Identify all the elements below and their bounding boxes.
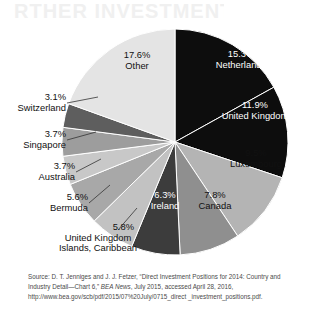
callout-pct-australia: 3.7%: [54, 160, 75, 171]
callout-name-singapore: Singapore: [23, 139, 66, 150]
callout-name-uk-islands-caribbean-line1: United Kingdom: [65, 232, 132, 243]
callout-name-uk-islands-caribbean-line2: Islands, Caribbean: [59, 242, 137, 253]
slice-label-other: 17.6% Other: [107, 50, 167, 71]
slice-label-united-kingdom: 11.9% United Kingdom: [205, 100, 305, 121]
callout-pct-switzerland: 3.1%: [45, 91, 66, 102]
slice-label-canada: 7.8% Canada: [188, 190, 242, 211]
callout-pct-singapore: 3.7%: [45, 128, 66, 139]
callout-label-singapore: 3.7% Singapore: [0, 129, 66, 150]
pie-chart-figure: RTHER INVESTMENTS 15.3% Netherlands 11.9…: [0, 0, 311, 322]
source-caption: Source: D. T. Jenniges and J. J. Fetzer,…: [28, 272, 296, 303]
source-caption-publication: BEA News: [101, 283, 131, 290]
callout-name-bermuda: Bermuda: [50, 202, 88, 213]
slice-name-ireland: Ireland: [141, 201, 189, 212]
chart-area: 15.3% Netherlands 11.9% United Kingdom 9…: [0, 0, 311, 268]
slice-name-canada: Canada: [188, 201, 242, 212]
callout-label-uk-islands-caribbean: 5.8% United Kingdom Islands, Caribbean: [18, 222, 178, 254]
callout-name-switzerland: Switzerland: [18, 102, 66, 113]
slice-label-luxembourg: 9.5% Luxembourg: [212, 148, 300, 169]
slice-name-netherlands: Netherlands: [198, 60, 284, 71]
callout-name-australia: Australia: [39, 171, 75, 182]
slice-name-other: Other: [107, 61, 167, 72]
slice-label-ireland: 6.3% Ireland: [141, 190, 189, 211]
slice-name-luxembourg: Luxembourg: [212, 159, 300, 170]
slice-label-netherlands: 15.3% Netherlands: [198, 49, 284, 70]
callout-label-australia: 3.7% Australia: [0, 161, 75, 182]
callout-label-switzerland: 3.1% Switzerland: [0, 92, 66, 113]
callout-pct-bermuda: 5.6%: [67, 191, 88, 202]
callout-label-bermuda: 5.6% Bermuda: [0, 192, 88, 213]
slice-name-united-kingdom: United Kingdom: [205, 111, 305, 122]
